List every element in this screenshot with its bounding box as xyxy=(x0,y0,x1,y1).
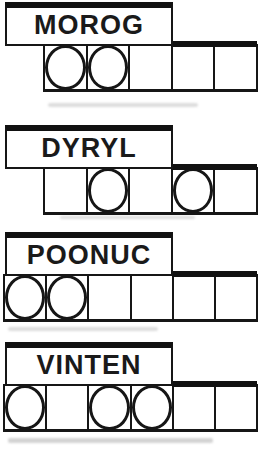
circle-marker-icon xyxy=(5,275,45,320)
sound-box-cell xyxy=(89,276,131,319)
sound-boxes-row xyxy=(43,44,258,92)
scan-artifact xyxy=(60,216,195,219)
sound-box-cell xyxy=(88,46,131,89)
word-label: DYRYL xyxy=(41,133,137,164)
word-box: VINTEN xyxy=(5,342,173,386)
sound-box-cell xyxy=(215,169,256,212)
sound-box-cell xyxy=(47,386,89,429)
circle-marker-icon xyxy=(173,168,214,213)
thick-top-rule xyxy=(172,271,257,277)
circle-marker-icon xyxy=(5,385,45,430)
sound-box-cell xyxy=(5,276,47,319)
sound-box-cell xyxy=(5,386,47,429)
word-label: MOROG xyxy=(34,10,144,41)
sound-box-cell xyxy=(174,276,216,319)
sound-boxes-row xyxy=(3,384,258,432)
circle-marker-icon xyxy=(47,275,87,320)
circle-marker-icon xyxy=(88,168,129,213)
circle-marker-icon xyxy=(132,385,172,430)
sound-box-cell xyxy=(47,276,89,319)
sound-box-cell xyxy=(130,46,173,89)
sound-box-cell xyxy=(130,169,173,212)
word-label: VINTEN xyxy=(36,350,141,381)
word-box: MOROG xyxy=(5,2,173,46)
word-box: DYRYL xyxy=(5,125,173,169)
circle-marker-icon xyxy=(45,45,86,90)
sound-box-cell xyxy=(132,386,174,429)
sound-box-cell xyxy=(45,46,88,89)
sound-box-cell xyxy=(132,276,174,319)
circle-marker-icon xyxy=(88,45,129,90)
word-label: POONUC xyxy=(27,240,152,271)
thick-top-rule xyxy=(171,164,257,170)
sound-box-cell xyxy=(215,46,256,89)
thick-top-rule xyxy=(172,381,257,387)
sound-box-cell xyxy=(89,386,131,429)
sound-box-cell xyxy=(216,276,256,319)
sound-box-cell xyxy=(174,386,216,429)
scan-artifact xyxy=(8,438,213,443)
sound-boxes-row xyxy=(43,167,258,215)
circle-marker-icon xyxy=(89,385,129,430)
word-box: POONUC xyxy=(5,232,173,276)
sound-box-cell xyxy=(173,169,216,212)
sound-box-cell xyxy=(45,169,88,212)
scan-artifact xyxy=(48,103,198,107)
sound-box-cell xyxy=(88,169,131,212)
thick-top-rule xyxy=(171,41,257,47)
sound-box-cell xyxy=(216,386,256,429)
sound-boxes-row xyxy=(3,274,258,322)
scan-artifact xyxy=(8,327,158,331)
sound-box-cell xyxy=(173,46,216,89)
worksheet-page: MOROG DYRYL POONUC VINTEN xyxy=(0,0,267,450)
